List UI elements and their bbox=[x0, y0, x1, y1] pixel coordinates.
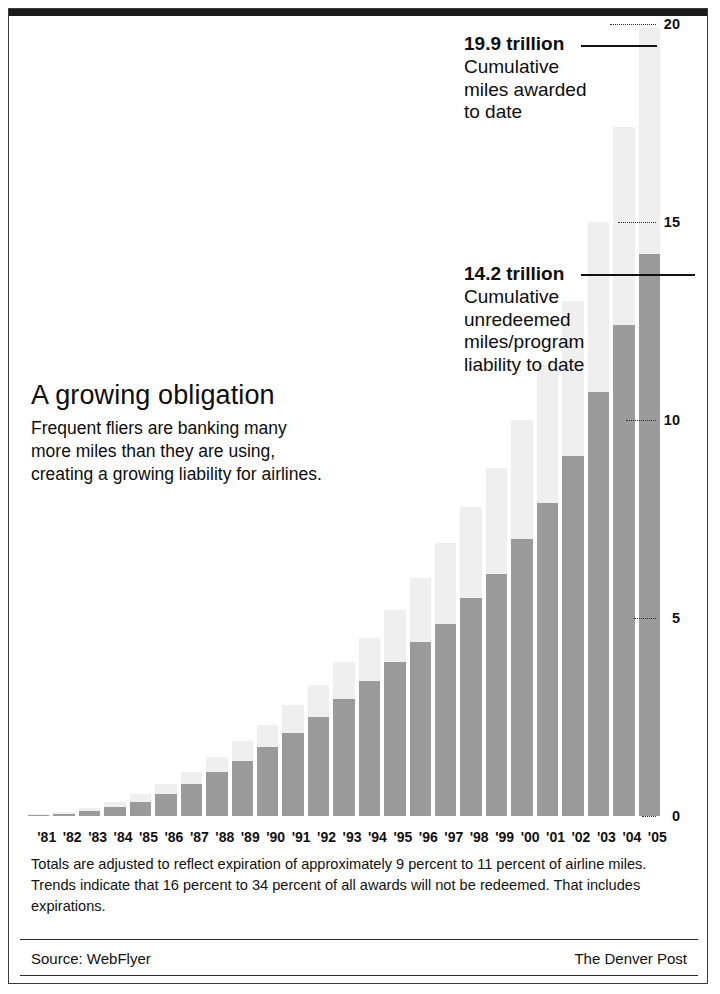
bar-group bbox=[537, 24, 558, 816]
bar-program-liability bbox=[511, 539, 532, 816]
annotation-description-line: liability to date bbox=[464, 354, 694, 377]
bar-program-liability bbox=[384, 662, 405, 816]
bar-program-liability bbox=[460, 598, 481, 816]
annotation-description-line: miles/program bbox=[464, 331, 694, 354]
footnote: Totals are adjusted to reflect expiratio… bbox=[31, 854, 677, 917]
bar-group bbox=[639, 24, 660, 816]
infographic-frame: 05101520 '81'82'83'84'85'86'87'88'89'90'… bbox=[8, 8, 708, 984]
annotation-description-line: Cumulative bbox=[464, 56, 694, 79]
bar-group bbox=[486, 24, 507, 816]
bar-program-liability bbox=[155, 794, 176, 816]
bar-group bbox=[511, 24, 532, 816]
chart-subtitle-line: creating a growing liability for airline… bbox=[31, 463, 391, 486]
annotation-value: 19.9 trillion bbox=[464, 33, 694, 56]
bar-program-liability bbox=[435, 624, 456, 816]
footnote-line: Trends indicate that 16 percent to 34 pe… bbox=[31, 877, 640, 893]
x-axis-tick-label: '05 bbox=[640, 829, 674, 845]
bar-group bbox=[410, 24, 431, 816]
bar-program-liability bbox=[613, 325, 634, 816]
chart-title: A growing obligation bbox=[31, 381, 391, 411]
publisher-label: The Denver Post bbox=[574, 950, 687, 967]
top-rule bbox=[9, 9, 707, 16]
bar-program-liability bbox=[232, 761, 253, 816]
footnote-line: expirations. bbox=[31, 898, 106, 914]
annotation-description-line: Cumulative bbox=[464, 286, 694, 309]
annotation-description: Cumulative miles awarded to date bbox=[464, 56, 694, 124]
annotation-description-line: miles awarded bbox=[464, 79, 694, 102]
annotation-leader-line bbox=[581, 274, 695, 276]
source-divider bbox=[20, 939, 698, 940]
bar-program-liability bbox=[130, 802, 151, 816]
bar-program-liability bbox=[104, 807, 125, 816]
bar-program-liability bbox=[410, 642, 431, 816]
bar-program-liability bbox=[79, 811, 100, 816]
source-label: Source: WebFlyer bbox=[31, 950, 151, 967]
bar-program-liability bbox=[562, 456, 583, 816]
bar-program-liability bbox=[588, 392, 609, 816]
bar-group bbox=[562, 24, 583, 816]
annotation-description-line: unredeemed bbox=[464, 309, 694, 332]
footnote-line: Totals are adjusted to reflect expiratio… bbox=[31, 856, 646, 872]
annotation-leader-line bbox=[581, 45, 657, 47]
bar-program-liability bbox=[181, 784, 202, 816]
bar-program-liability bbox=[53, 814, 74, 816]
source-bar: Source: WebFlyer The Denver Post bbox=[31, 950, 687, 967]
bottom-rule bbox=[20, 975, 698, 976]
bar-group bbox=[460, 24, 481, 816]
bar-group bbox=[435, 24, 456, 816]
annotation-description: Cumulative unredeemed miles/program liab… bbox=[464, 286, 694, 377]
bar-program-liability bbox=[206, 772, 227, 816]
chart-subtitle-line: Frequent fliers are banking many bbox=[31, 417, 391, 440]
annotation-program-liability: 14.2 trillion Cumulative unredeemed mile… bbox=[464, 263, 694, 377]
bar-program-liability bbox=[282, 733, 303, 816]
headline-block: A growing obligation Frequent fliers are… bbox=[31, 381, 391, 486]
x-axis: '81'82'83'84'85'86'87'88'89'90'91'92'93'… bbox=[28, 829, 676, 851]
bar-program-liability bbox=[486, 574, 507, 816]
bar-program-liability bbox=[257, 747, 278, 816]
annotation-miles-awarded: 19.9 trillion Cumulative miles awarded t… bbox=[464, 33, 694, 124]
bar-program-liability bbox=[359, 681, 380, 816]
annotation-description-line: to date bbox=[464, 101, 694, 124]
bar-program-liability bbox=[333, 699, 354, 816]
bar-program-liability bbox=[308, 717, 329, 816]
bar-group bbox=[588, 24, 609, 816]
chart-subtitle: Frequent fliers are banking many more mi… bbox=[31, 417, 391, 487]
chart-subtitle-line: more miles than they are using, bbox=[31, 440, 391, 463]
bar-program-liability bbox=[28, 815, 49, 816]
bar-program-liability bbox=[537, 503, 558, 816]
bar-group bbox=[613, 24, 634, 816]
